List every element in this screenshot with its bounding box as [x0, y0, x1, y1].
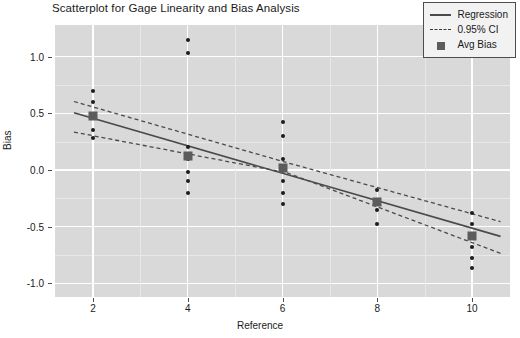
- y-tick-mark: [48, 57, 52, 58]
- y-tick-label: 0.5: [30, 108, 44, 119]
- data-point: [281, 157, 285, 161]
- data-point: [375, 222, 379, 226]
- legend-item-avg-bias: Avg Bias: [429, 37, 508, 52]
- data-point: [470, 256, 474, 260]
- avg-bias-marker: [88, 112, 97, 121]
- x-tick-label: 2: [90, 303, 96, 314]
- data-point: [281, 179, 285, 183]
- x-tick-mark: [283, 298, 284, 302]
- data-point: [186, 191, 190, 195]
- data-point: [91, 136, 95, 140]
- x-tick-label: 6: [280, 303, 286, 314]
- data-point: [281, 120, 285, 124]
- scatterplot-figure: Scatterplot for Gage Linearity and Bias …: [0, 0, 520, 338]
- data-point: [470, 222, 474, 226]
- data-point: [186, 51, 190, 55]
- avg-bias-marker: [278, 163, 287, 172]
- data-point: [470, 211, 474, 215]
- x-axis-label: Reference: [0, 320, 520, 331]
- data-point: [91, 128, 95, 132]
- avg-bias-marker: [183, 151, 192, 160]
- x-tick-label: 8: [375, 303, 381, 314]
- y-axis-label: Bias: [2, 131, 13, 150]
- data-point: [281, 134, 285, 138]
- trend-line: [74, 113, 501, 237]
- y-tick-mark: [48, 113, 52, 114]
- x-tick-label: 10: [467, 303, 478, 314]
- data-point: [186, 38, 190, 42]
- x-tick-mark: [188, 298, 189, 302]
- page-title: Scatterplot for Gage Linearity and Bias …: [52, 2, 300, 14]
- data-point: [375, 188, 379, 192]
- x-tick-mark: [472, 298, 473, 302]
- y-tick-label: 1.0: [30, 51, 44, 62]
- y-tick-mark: [48, 283, 52, 284]
- x-tick-mark: [93, 298, 94, 302]
- square-marker-icon: [429, 38, 452, 52]
- legend-label-avg-bias: Avg Bias: [457, 39, 496, 50]
- trend-lines: [55, 25, 510, 297]
- data-point: [91, 89, 95, 93]
- y-tick-mark: [48, 227, 52, 228]
- data-point: [186, 179, 190, 183]
- data-point: [91, 100, 95, 104]
- x-tick-mark: [377, 298, 378, 302]
- y-tick-label: 0.0: [30, 165, 44, 176]
- avg-bias-marker: [373, 198, 382, 207]
- legend-item-regression: Regression: [429, 7, 508, 22]
- legend-label-ci: 0.95% CI: [457, 24, 498, 35]
- trend-line: [74, 102, 501, 222]
- data-point: [470, 245, 474, 249]
- data-point: [375, 208, 379, 212]
- y-tick-mark: [48, 170, 52, 171]
- trend-line: [74, 132, 501, 253]
- data-point: [281, 191, 285, 195]
- data-point: [470, 266, 474, 270]
- data-point: [186, 170, 190, 174]
- avg-bias-marker: [468, 232, 477, 241]
- legend-label-regression: Regression: [457, 9, 508, 20]
- solid-line-icon: [429, 8, 452, 22]
- plot-panel: [55, 25, 510, 297]
- y-tick-label: -0.5: [27, 221, 44, 232]
- x-tick-label: 4: [185, 303, 191, 314]
- legend-item-ci: 0.95% CI: [429, 22, 508, 37]
- y-tick-label: -1.0: [27, 278, 44, 289]
- data-point: [281, 202, 285, 206]
- data-point: [186, 145, 190, 149]
- legend: Regression 0.95% CI Avg Bias: [423, 2, 516, 58]
- dashed-line-icon: [429, 23, 452, 37]
